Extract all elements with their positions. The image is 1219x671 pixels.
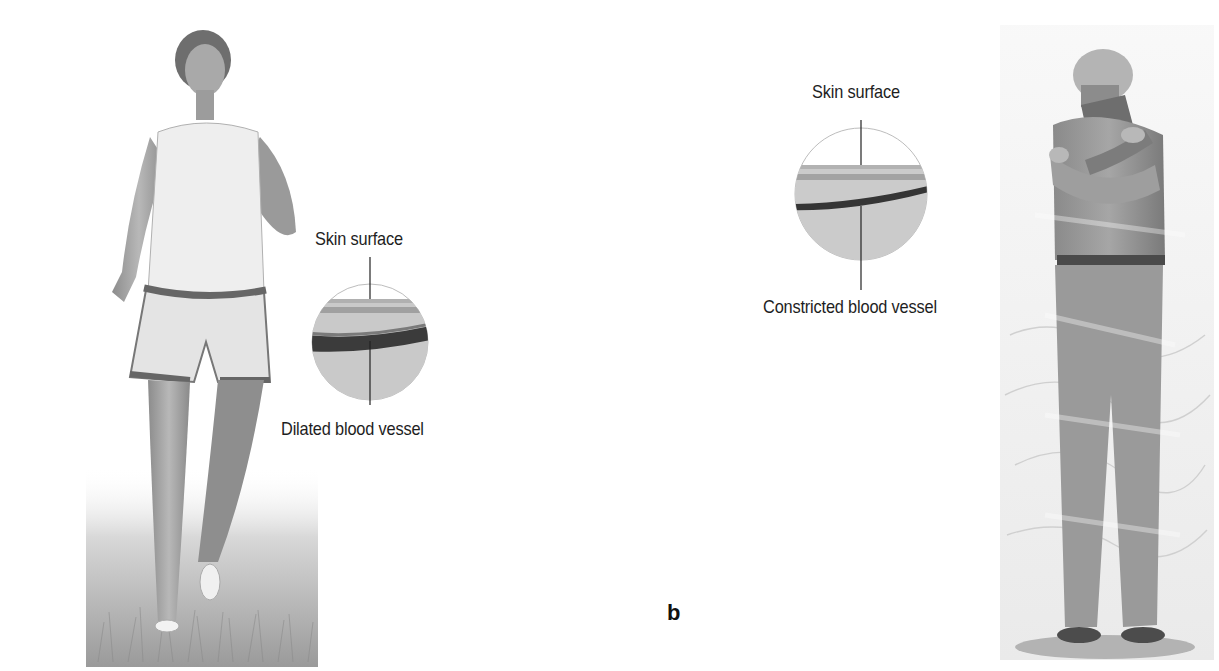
dilated-vessel-inset — [305, 255, 435, 445]
tank-top — [148, 123, 264, 298]
constricted-vessel-inset — [786, 118, 936, 318]
dilated-blood-vessel-label: Dilated blood vessel — [281, 418, 424, 440]
panel-label: b — [667, 600, 680, 626]
skin-surface-label-right: Skin surface — [812, 81, 900, 103]
shorts — [130, 290, 270, 382]
grass — [86, 467, 318, 667]
cold-man-illustration — [995, 15, 1219, 665]
skin-surface-label-left: Skin surface — [315, 228, 403, 250]
runner-illustration — [78, 22, 338, 671]
head — [185, 44, 225, 96]
belt — [1057, 255, 1165, 265]
constricted-blood-vessel-label: Constricted blood vessel — [763, 296, 937, 318]
